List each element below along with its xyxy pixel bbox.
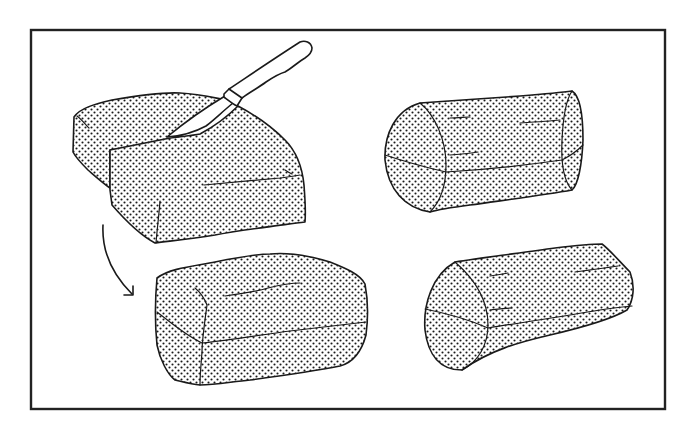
curved-arrow-icon bbox=[103, 225, 133, 295]
illustration bbox=[0, 0, 697, 424]
knife-handle bbox=[229, 41, 312, 98]
dough-block-with-knife bbox=[73, 41, 312, 243]
rectangular-loaf bbox=[156, 253, 368, 385]
log-body bbox=[385, 91, 583, 212]
cylinder-log-bottom bbox=[425, 244, 633, 370]
loaf-body bbox=[156, 253, 368, 385]
cylinder-log-top bbox=[385, 91, 583, 212]
